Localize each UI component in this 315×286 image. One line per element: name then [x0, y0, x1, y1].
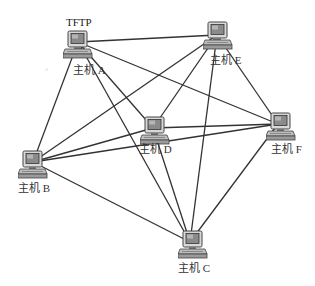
host-e-computer-icon[interactable]	[203, 21, 233, 51]
host-a-label: 主机 A	[73, 64, 106, 76]
edge-E-B	[33, 35, 217, 162]
edge-B-C	[33, 162, 190, 242]
stray-mark: ^	[45, 66, 48, 74]
host-b-label: 主机 B	[18, 182, 50, 194]
edge-A-E	[78, 35, 217, 42]
host-f-label: 主机 F	[271, 143, 302, 155]
host-a-role-label: TFTP	[66, 16, 92, 28]
host-d-computer-icon[interactable]	[140, 116, 170, 146]
host-e-label: 主机 E	[210, 54, 241, 66]
host-c-computer-icon[interactable]	[178, 230, 208, 260]
host-a-computer-icon[interactable]	[63, 30, 93, 60]
edge-A-F	[78, 42, 278, 124]
host-d-label: 主机 D	[139, 143, 172, 155]
network-diagram: TFTP 主机 A 主机 E 主机 D 主机 F 主机 B 主机 C	[0, 0, 315, 286]
host-c-label: 主机 C	[178, 262, 210, 274]
host-f-computer-icon[interactable]	[266, 112, 296, 142]
host-b-computer-icon[interactable]	[18, 150, 48, 180]
